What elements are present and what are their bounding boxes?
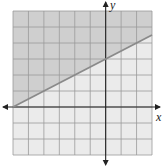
x-axis-label: x [155,110,162,124]
plot-area [2,1,161,166]
y-axis-up-arrow-icon [103,1,109,7]
y-axis-down-arrow-icon [103,160,109,166]
x-axis-left-arrow-icon [2,104,8,110]
y-axis-label: y [109,0,116,12]
inequality-graph: x y [0,0,163,167]
